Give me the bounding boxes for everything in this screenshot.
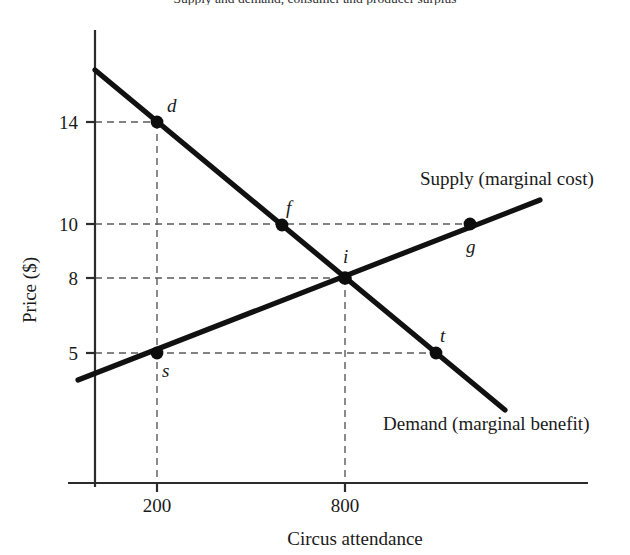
point-label-d: d: [167, 95, 177, 116]
y-tick-label-14: 14: [59, 112, 79, 133]
data-point-d[interactable]: [151, 116, 164, 129]
y-axis-ticks: [86, 122, 95, 353]
point-label-i: i: [343, 246, 348, 267]
data-point-g[interactable]: [464, 218, 477, 231]
point-label-t: t: [440, 325, 446, 346]
data-point-t[interactable]: [430, 347, 443, 360]
x-axis-ticks: [157, 483, 345, 492]
point-label-s: s: [162, 360, 169, 381]
data-points: [151, 116, 477, 360]
y-axis-title: Price ($): [19, 257, 41, 323]
y-tick-label-8: 8: [69, 268, 79, 289]
x-tick-label-200: 200: [143, 495, 172, 516]
x-axis-title: Circus attendance: [287, 528, 423, 549]
x-tick-label-800: 800: [331, 495, 360, 516]
figure-container: Supply and demand, consumer and producer…: [0, 0, 630, 555]
data-point-f[interactable]: [276, 219, 289, 232]
data-point-i[interactable]: [338, 271, 352, 285]
y-tick-label-10: 10: [59, 214, 78, 235]
supply-demand-chart: d f i t s g 14 10 8 5 200 800 Price ($) …: [0, 0, 630, 555]
data-point-s[interactable]: [151, 347, 164, 360]
y-tick-label-5: 5: [69, 343, 79, 364]
supply-curve-label: Supply (marginal cost): [420, 168, 594, 190]
demand-curve-label: Demand (marginal benefit): [383, 413, 589, 435]
point-label-g: g: [466, 236, 476, 257]
point-label-f: f: [286, 197, 294, 218]
